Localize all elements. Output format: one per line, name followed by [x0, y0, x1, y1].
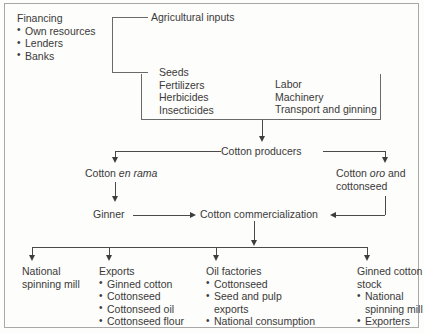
inputs-left-list: Seeds Fertilizers Herbicides Insecticide… [151, 66, 214, 116]
arrow-right-to-commercialization [190, 212, 196, 218]
list-item: National consumption [206, 315, 315, 328]
list-item: Transport and ginning [267, 103, 377, 116]
cotton-oro-label: Cotton oro and cottonseed [336, 167, 405, 192]
connector-ginner-to-commercialization [133, 215, 190, 216]
output-heading: Oil factories [206, 265, 315, 278]
list-item: Machinery [267, 91, 377, 104]
output-list: National spinning mill Exporters [357, 290, 423, 328]
arrow-down-to-producers [259, 136, 265, 142]
list-item: Cottonseed [206, 278, 315, 291]
output-column-oil-factories: Oil factories Cottonseed Seed and pulp e… [206, 265, 315, 328]
arrow-down-to-outputs-bar [251, 240, 257, 246]
list-item: Own resources [17, 25, 96, 38]
list-item-continuation: spinning mill [357, 303, 423, 316]
output-heading: Exports [99, 265, 184, 278]
arrow-down-to-output-3 [213, 255, 219, 261]
output-heading: Ginned cotton [357, 265, 423, 278]
list-item: Exporters [357, 315, 423, 328]
financing-block: Financing Own resources Lenders Banks [17, 12, 96, 62]
producers-bar-left [115, 151, 221, 152]
arrow-down-to-oro [382, 157, 388, 163]
list-item: Banks [17, 50, 96, 63]
list-item: Cottonseed [99, 290, 184, 303]
cotton-commercialization-label: Cotton commercialization [200, 208, 318, 221]
output-heading-line2: spinning mill [22, 278, 80, 291]
producers-bar-right [323, 151, 385, 152]
output-list: Ginned cotton Cottonseed Cottonseed oil … [99, 278, 184, 328]
cotton-producers-label: Cotton producers [221, 145, 302, 158]
output-heading-line2: stock [357, 278, 423, 291]
output-list: Cottonseed Seed and pulp exports Nationa… [206, 278, 315, 328]
arrow-down-to-ginner [112, 196, 118, 202]
agricultural-inputs-label: Agricultural inputs [151, 11, 234, 24]
connector-oro-down [385, 196, 386, 215]
financing-list: Own resources Lenders Banks [17, 25, 96, 63]
list-item: National [357, 290, 423, 303]
list-item-continuation: exports [206, 303, 315, 316]
inputs-right-list: Labor Machinery Transport and ginning [267, 78, 377, 116]
cotton-oro-italic: oro [370, 167, 385, 179]
inputs-right-column: Labor Machinery Transport and ginning [267, 78, 377, 116]
arrow-left-to-commercialization [330, 212, 336, 218]
cotton-oro-line1: Cotton oro and [336, 167, 405, 180]
list-item: Fertilizers [151, 79, 214, 92]
list-item: Lenders [17, 37, 96, 50]
list-item: Ginned cotton [99, 278, 184, 291]
list-item: Labor [267, 78, 377, 91]
list-item: Cottonseed oil [99, 303, 184, 316]
cotton-en-rama-label: Cotton en rama [85, 167, 157, 180]
connector-oro-to-commercialization [336, 215, 385, 216]
outputs-distribution-bar [32, 247, 367, 248]
financing-heading: Financing [17, 12, 96, 25]
ginner-label: Ginner [93, 208, 125, 221]
list-item: Insecticides [151, 104, 214, 117]
cotton-en-rama-italic: en rama [119, 167, 158, 179]
list-item: Herbicides [151, 91, 214, 104]
arrow-down-to-output-2 [106, 255, 112, 261]
arrow-down-to-en-rama [112, 157, 118, 163]
output-column-ginned-cotton-stock: Ginned cotton stock National spinning mi… [357, 265, 423, 328]
cotton-oro-line2: cottonseed [336, 180, 405, 193]
inputs-left-column: Seeds Fertilizers Herbicides Insecticide… [151, 66, 214, 116]
list-item: Seeds [151, 66, 214, 79]
arrow-down-to-output-4 [364, 255, 370, 261]
list-item: Seed and pulp [206, 290, 315, 303]
output-column-exports: Exports Ginned cotton Cottonseed Cottons… [99, 265, 184, 328]
cotton-en-rama-prefix: Cotton [85, 167, 119, 179]
arrow-down-to-output-1 [29, 255, 35, 261]
list-item: Cottonseed flour [99, 315, 184, 328]
diagram-frame: Financing Own resources Lenders Banks Ag… [4, 3, 419, 328]
output-column-national-spinning-mill: National spinning mill [22, 265, 80, 290]
cotton-oro-suffix: and [385, 167, 405, 179]
financing-fanout-bracket [112, 17, 148, 73]
output-heading: National [22, 265, 80, 278]
cotton-oro-prefix: Cotton [336, 167, 370, 179]
